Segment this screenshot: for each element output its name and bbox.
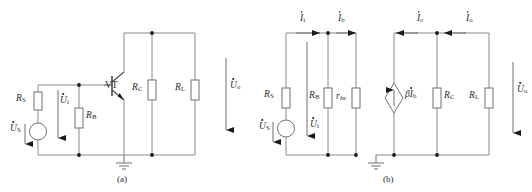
panel-a-rb-label: RB bbox=[86, 111, 97, 121]
panel-a-ui-label: Ui bbox=[60, 96, 69, 106]
panel-a-uo-label: Uo bbox=[230, 81, 240, 91]
figure-root: US RS Ui RB VT RC RL Uo (a) US RS Ui Ii … bbox=[0, 0, 532, 192]
panel-a-node-bottom-rb bbox=[77, 153, 81, 157]
panel-a-emitter-arrow bbox=[118, 93, 124, 100]
panel-a-transistor-label: VT bbox=[105, 81, 118, 91]
panel-b-voltage-source-symbol bbox=[278, 120, 295, 137]
panel-b-ib-label: Ib bbox=[338, 14, 345, 24]
panel-b-node-bottom-rbe bbox=[354, 153, 358, 157]
panel-b-rbe-label: rbe bbox=[336, 92, 346, 102]
panel-b-rl-body bbox=[485, 88, 493, 108]
panel-b-rl-label: RL bbox=[469, 91, 479, 101]
panel-b-node-bottom-rb bbox=[326, 153, 330, 157]
panel-a-rc-label: RC bbox=[132, 83, 143, 93]
panel-b-rb-label: RB bbox=[309, 91, 320, 101]
panel-a-source-label: US bbox=[10, 124, 21, 134]
panel-b-node-top-rc bbox=[435, 31, 439, 35]
panel-b-rc-body bbox=[433, 88, 441, 108]
panel-b-rc-label: RC bbox=[444, 91, 455, 101]
panel-a-rl-label: RL bbox=[175, 83, 185, 93]
panel-a-rs-body bbox=[34, 92, 42, 110]
panel-b-node-bottom-dep bbox=[392, 153, 396, 157]
panel-b-rbe-body bbox=[352, 88, 360, 108]
panel-a-node-base bbox=[77, 83, 81, 87]
panel-b-dependent-source-label: βIb bbox=[405, 90, 417, 100]
panel-b-io-label: Io bbox=[466, 14, 473, 24]
panel-a-node-bottom-rc bbox=[150, 153, 154, 157]
panel-a-rl-body bbox=[191, 80, 199, 100]
panel-a-caption: (a) bbox=[117, 174, 127, 184]
panel-b-uo-label: Uo bbox=[517, 85, 527, 95]
panel-a-circuit bbox=[25, 31, 226, 169]
panel-b-rs-label: RS bbox=[264, 90, 274, 100]
panel-a-voltage-source-symbol bbox=[30, 123, 47, 140]
panel-b-node-top-rb bbox=[326, 31, 330, 35]
panel-a-rs-label: RS bbox=[16, 94, 26, 104]
panel-b-rb-body bbox=[324, 88, 332, 108]
panel-a-rb-body bbox=[75, 108, 83, 128]
panel-b-rs-body bbox=[282, 88, 290, 108]
panel-b-ii-label: Ii bbox=[300, 14, 305, 24]
panel-b-source-label: US bbox=[259, 122, 270, 132]
panel-a-rc-body bbox=[148, 80, 156, 100]
panel-b-ic-label: Ic bbox=[417, 14, 423, 24]
panel-b-caption: (b) bbox=[383, 174, 394, 184]
panel-b-ui-label: Ui bbox=[310, 120, 319, 130]
panel-a-node-top bbox=[150, 31, 154, 35]
panel-b-node-bottom-rc bbox=[435, 153, 439, 157]
